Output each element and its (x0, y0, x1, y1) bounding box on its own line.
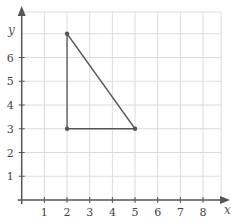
vertex-point (65, 127, 69, 131)
x-tick-label: 8 (200, 206, 207, 219)
vertex-point (133, 127, 137, 131)
x-tick-label: 4 (109, 206, 116, 219)
y-tick-label: 4 (7, 99, 14, 112)
x-tick-label: 5 (132, 206, 139, 219)
y-axis-arrow-icon (18, 6, 26, 16)
x-tick-label: 3 (86, 206, 93, 219)
coordinate-plane: 12345678123456 x y (0, 0, 234, 224)
x-tick-label: 2 (64, 206, 71, 219)
y-tick-label: 3 (7, 123, 14, 136)
x-tick-label: 6 (154, 206, 161, 219)
y-tick-label: 1 (7, 170, 14, 183)
tick-labels: 12345678123456 (7, 52, 207, 220)
grid-lines (22, 12, 221, 200)
y-tick-label: 6 (7, 52, 14, 65)
y-tick-label: 5 (7, 75, 14, 88)
x-tick-label: 7 (177, 206, 184, 219)
x-axis-label: x (224, 203, 231, 217)
y-axis-label: y (7, 23, 15, 37)
x-tick-label: 1 (41, 206, 48, 219)
y-tick-label: 2 (7, 147, 14, 160)
vertex-point (65, 32, 69, 36)
